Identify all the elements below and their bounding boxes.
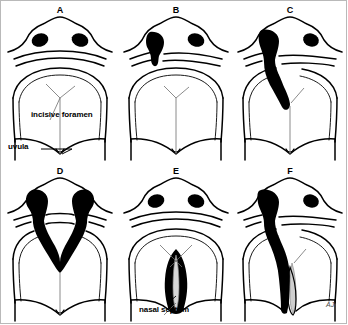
panel-e: E <box>118 163 234 325</box>
panel-a: A <box>2 2 118 164</box>
complete-cleft-left-f <box>257 190 290 314</box>
panel-d: D <box>2 163 118 325</box>
panel-b: B <box>118 2 234 164</box>
bilateral-cleft-d <box>26 190 94 273</box>
panel-d-drawing <box>2 163 118 325</box>
artist-signature: AJ <box>326 301 334 308</box>
label-incisive-foramen: incisive foramen <box>31 110 93 119</box>
nostril-right-b <box>186 31 206 49</box>
label-nasal-septum: nasal septum <box>139 305 189 314</box>
label-uvula: uvula <box>8 142 28 151</box>
nostril-right-f <box>301 192 320 210</box>
panel-e-drawing <box>118 163 234 325</box>
nostril-right-c <box>301 31 320 49</box>
nostril-left-a <box>30 31 50 49</box>
panel-c: C <box>232 2 348 164</box>
panel-c-drawing <box>232 2 348 164</box>
nostril-right-a <box>70 31 90 49</box>
cleft-palate-figure: A <box>0 0 348 325</box>
panel-b-drawing <box>118 2 234 164</box>
cleft-lip-palate-left-c <box>259 30 290 110</box>
panel-a-drawing <box>2 2 118 164</box>
nostril-right-e <box>186 192 206 210</box>
nostril-left-e <box>146 192 166 210</box>
